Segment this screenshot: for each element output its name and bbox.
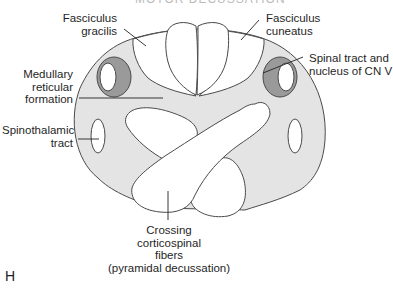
spinothalamic-left	[91, 119, 105, 153]
label-line: Spinothalamic	[2, 124, 73, 137]
label-line: (pyramidal decussation)	[108, 262, 230, 275]
cn5-tract-right	[278, 63, 294, 91]
spinothalamic-right	[288, 119, 302, 153]
label-spinal-tract-cn-v: Spinal tract and nucleus of CN V	[309, 52, 392, 77]
label-spinothalamic-tract: Spinothalamic tract	[2, 124, 73, 149]
label-line: fibers	[108, 249, 230, 262]
label-medullary-reticular-formation: Medullary reticular formation	[10, 68, 73, 106]
label-line: formation	[10, 93, 73, 106]
label-fasciculus-cuneatus: Fasciculus cuneatus	[266, 12, 320, 37]
label-fasciculus-gracilis: Fasciculus gracilis	[60, 12, 117, 37]
label-line: reticular	[10, 81, 73, 94]
cn5-tract-left	[100, 63, 116, 91]
label-line: Spinal tract and	[309, 52, 392, 65]
panel-letter: H	[5, 268, 15, 284]
label-line: Medullary	[10, 68, 73, 81]
label-crossing-corticospinal: Crossing corticospinal fibers (pyramidal…	[108, 224, 230, 274]
label-line: tract	[2, 137, 73, 150]
label-line: gracilis	[60, 25, 117, 38]
label-line: Fasciculus	[60, 12, 117, 25]
label-line: corticospinal	[108, 237, 230, 250]
label-line: cuneatus	[266, 25, 320, 38]
label-line: nucleus of CN V	[309, 65, 392, 78]
label-line: Crossing	[108, 224, 230, 237]
label-line: Fasciculus	[266, 12, 320, 25]
